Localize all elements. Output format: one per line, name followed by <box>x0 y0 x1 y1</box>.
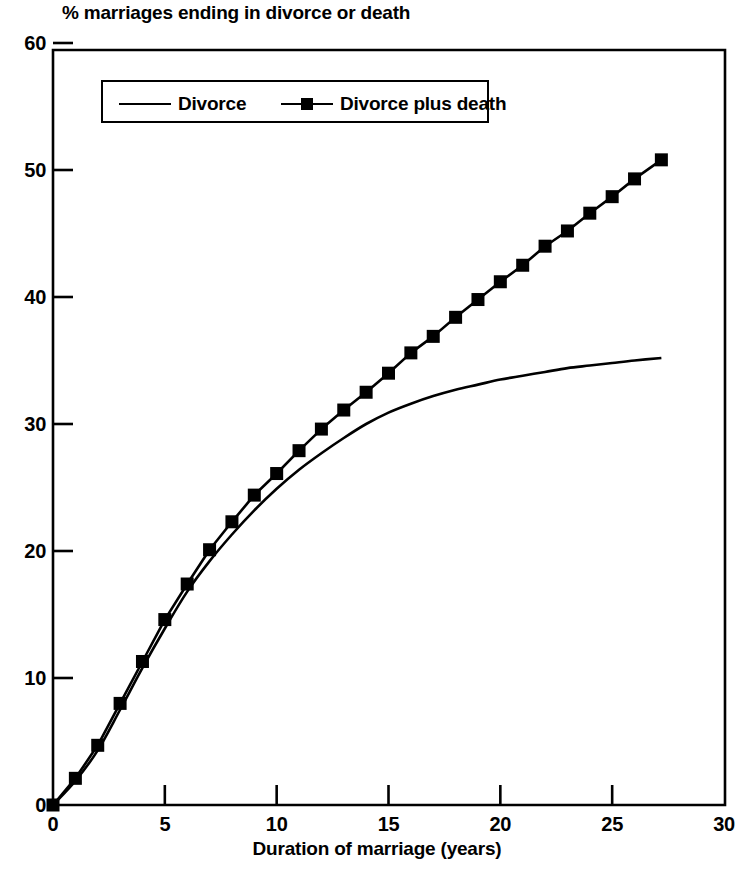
chart-legend: Divorce Divorce plus death <box>101 80 489 123</box>
y-axis-tick-label: 30 <box>0 414 46 434</box>
legend-item-divorce-plus-death: Divorce plus death <box>281 82 506 125</box>
y-axis-tick-label: 60 <box>0 33 46 53</box>
chart-container: % marriages ending in divorce or death 0… <box>0 0 754 874</box>
axis-ticks <box>53 43 612 805</box>
y-axis-tick-label: 10 <box>0 668 46 688</box>
y-axis-tick-label: 20 <box>0 541 46 561</box>
y-axis-tick-label: 40 <box>0 287 46 307</box>
legend-item-divorce: Divorce <box>119 82 246 125</box>
x-axis-tick-label: 20 <box>477 814 523 834</box>
x-axis-tick-label: 10 <box>254 814 300 834</box>
plot-area <box>0 0 754 874</box>
x-axis-label: Duration of marriage (years) <box>0 838 754 860</box>
legend-line-square-marker-icon <box>281 95 333 113</box>
x-axis-tick-label: 25 <box>589 814 635 834</box>
x-axis-tick-label: 5 <box>142 814 188 834</box>
legend-label-divorce: Divorce <box>178 93 246 115</box>
legend-label-divorce-plus-death: Divorce plus death <box>340 93 506 115</box>
x-axis-tick-label: 0 <box>30 814 76 834</box>
data-series <box>47 153 668 811</box>
plot-frame <box>53 50 725 805</box>
legend-line-icon <box>119 95 171 113</box>
y-axis-tick-label: 0 <box>0 795 46 815</box>
y-axis-tick-label: 50 <box>0 160 46 180</box>
x-axis-tick-label: 30 <box>701 814 747 834</box>
x-axis-tick-label: 15 <box>366 814 412 834</box>
